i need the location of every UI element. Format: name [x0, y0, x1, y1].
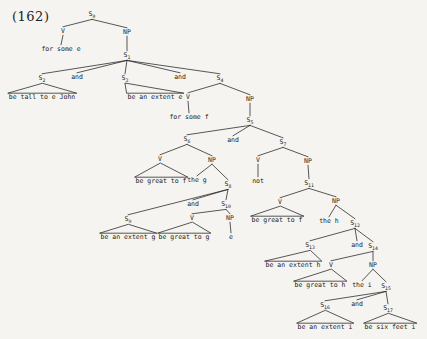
node-NP_e: NP [304, 157, 312, 165]
node-V_e: V [256, 156, 260, 164]
triangle-S16-w_beanextenti [297, 310, 354, 323]
edge-V_a-w_forsome_e [61, 35, 63, 45]
triangle-S9-w_beanextentg [100, 224, 157, 233]
node-S3: S3 [122, 74, 129, 83]
edge-S6-NP_c [187, 144, 212, 155]
edge-S12-S14 [355, 228, 373, 241]
node-V_f: V [278, 198, 282, 206]
node-S4: S4 [217, 74, 224, 83]
node-NP_b: NP [246, 95, 254, 103]
node-S16: S16 [320, 301, 330, 310]
edge-NP_f-S12 [336, 205, 355, 219]
edge-S4-V_b [188, 83, 220, 92]
terminal-and5: and [351, 241, 363, 249]
edge-S15-and6 [357, 291, 386, 299]
edge-S1-S2 [42, 60, 127, 73]
node-S8: S8 [225, 180, 232, 189]
edge-S1-and1 [77, 60, 127, 72]
edge-S10-V_d [192, 209, 226, 213]
terminal-w_begreattof2: be great to f [252, 216, 303, 224]
edge-NP_g-w_thei [362, 269, 373, 281]
terminal-w_theg: the g [187, 176, 207, 184]
edge-NP_g-S15 [373, 269, 386, 282]
edge-V_b-w_forsomef [188, 101, 189, 113]
edge-S11-NP_f [309, 188, 336, 196]
terminal-w_beanextente: be an extent e [128, 93, 183, 101]
terminal-w_thei: the i [352, 281, 372, 289]
node-S2: S2 [39, 74, 46, 83]
triangle-V_f-w_begreattof2 [251, 206, 304, 216]
edge-S7-V_e [258, 147, 283, 155]
edge-S5-S6 [187, 125, 250, 134]
edge-S12-and5 [355, 228, 357, 240]
edge-S6-V_c [160, 144, 187, 154]
node-S10: S10 [221, 200, 231, 209]
edge-S14-V_g [331, 251, 373, 260]
triangle-S2-w_betalltoejohn [8, 83, 77, 93]
triangle-S17-w_besixfeeti [364, 313, 417, 323]
terminal-w_e: e [229, 233, 233, 241]
node-S12: S12 [350, 219, 360, 228]
node-NP_f: NP [332, 197, 340, 205]
node-S5: S5 [247, 116, 254, 125]
terminal-w_not: not [252, 177, 264, 185]
scanned-page: (162) S0VNPfor some eS1S2andS3andS4be ta… [0, 0, 427, 339]
edge-NP_c-S8 [212, 164, 228, 180]
edge-S0-NP_a [92, 19, 127, 27]
edge-S11-V_f [280, 188, 309, 197]
node-S6: S6 [184, 135, 191, 144]
terminal-w_besixfeeti: be six feet i [365, 323, 416, 331]
edge-NP_e-S11 [308, 165, 309, 179]
edge-NP_c-w_theg [197, 164, 212, 176]
node-S17: S17 [383, 304, 393, 313]
terminal-w_beanextenti: be an extent i [298, 323, 353, 331]
terminal-and1: and [71, 73, 83, 81]
triangle-V_d-w_begreattog [158, 222, 211, 233]
node-S1: S1 [124, 51, 131, 60]
terminal-w_beanextenth: be an extent h [266, 261, 321, 269]
terminal-w_beanextentg: be an extent g [101, 233, 156, 241]
node-S9: S9 [125, 215, 132, 224]
edge-S1-S4 [127, 60, 220, 73]
node-V_a: V [61, 27, 65, 35]
terminal-w_begreattoh: be great to h [295, 281, 346, 289]
terminal-and2: and [174, 73, 186, 81]
triangle-V_g-w_begreattoh [294, 269, 347, 281]
node-S0: S0 [89, 10, 96, 19]
terminal-w_forsome_e: for some e [41, 45, 80, 53]
triangle-V_c-w_begreattof1 [135, 163, 188, 177]
terminal-w_begreattog: be great to g [159, 233, 210, 241]
edge-S1-S3 [125, 60, 127, 73]
terminal-and4: and [187, 200, 199, 208]
node-V_b: V [186, 93, 190, 101]
node-S7: S7 [280, 138, 287, 147]
node-NP_g: NP [369, 261, 377, 269]
node-V_g: V [329, 261, 333, 269]
node-S11: S11 [304, 179, 314, 188]
edge-S5-S7 [250, 125, 283, 137]
edge-NP_f-w_theh [329, 205, 336, 217]
triangle-S13-w_beanextenth [265, 250, 322, 261]
node-NP_c: NP [208, 156, 216, 164]
terminal-and3: and [227, 136, 239, 144]
edge-S7-NP_e [283, 147, 308, 156]
node-V_c: V [158, 155, 162, 163]
terminal-w_begreattof1: be great to f [136, 177, 187, 185]
edge-S4-NP_b [220, 83, 250, 94]
node-S14: S14 [368, 242, 378, 251]
syntax-tree-diagram: S0VNPfor some eS1S2andS3andS4be tall to … [0, 0, 427, 339]
edge-S15-S17 [386, 291, 388, 303]
edge-S8-and4 [193, 189, 228, 199]
triangle-S3-w_beanextente [125, 83, 183, 93]
terminal-and6: and [351, 300, 363, 308]
terminal-w_theh: the h [319, 217, 339, 225]
terminal-w_forsomef: for some f [169, 113, 208, 121]
node-NP_a: NP [123, 28, 131, 36]
node-S13: S13 [305, 241, 315, 250]
node-NP_d: NP [226, 214, 234, 222]
node-V_d: V [190, 214, 194, 222]
terminal-w_betalltoejohn: be tall to e John [9, 93, 76, 101]
edge-S0-V_a [63, 19, 92, 26]
node-S15: S15 [381, 282, 391, 291]
edge-S12-S13 [310, 228, 355, 240]
